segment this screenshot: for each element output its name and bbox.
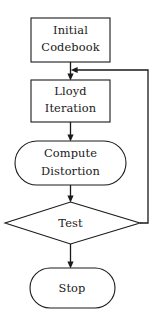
node-stop[interactable]: Stop: [30, 268, 115, 308]
flowchart-svg: Initial Codebook Lloyd Iteration Compute…: [0, 0, 161, 322]
edge-initial-to-lloyd: [67, 62, 73, 81]
edge-distortion-to-test: [67, 185, 73, 203]
node-lloyd-iteration-label-line2: Iteration: [45, 101, 97, 115]
node-lloyd-iteration[interactable]: Lloyd Iteration: [31, 80, 110, 122]
node-test[interactable]: Test: [5, 202, 140, 244]
node-compute-distortion-label-line1: Compute: [44, 146, 97, 160]
edge-lloyd-to-distortion: [67, 122, 73, 142]
node-compute-distortion[interactable]: Compute Distortion: [15, 141, 126, 185]
node-test-label: Test: [58, 216, 83, 230]
node-stop-label: Stop: [59, 281, 86, 295]
node-compute-distortion-label-line2: Distortion: [41, 164, 100, 178]
edge-test-feedback-arrowhead: [71, 67, 78, 73]
node-initial-codebook[interactable]: Initial Codebook: [31, 18, 110, 62]
edge-test-to-stop: [67, 244, 73, 269]
node-initial-codebook-label-line2: Codebook: [41, 40, 99, 54]
flowchart-canvas: Initial Codebook Lloyd Iteration Compute…: [0, 0, 161, 322]
node-initial-codebook-label-line1: Initial: [53, 23, 88, 37]
node-lloyd-iteration-label-line1: Lloyd: [54, 84, 86, 98]
